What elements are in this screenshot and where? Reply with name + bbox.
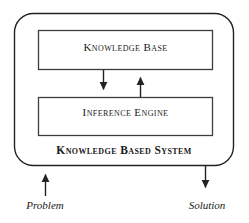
- problem-label: Problem: [8, 199, 82, 211]
- outer-container-shape: [15, 14, 234, 166]
- knowledge-based-system-label: Knowledge Based System: [14, 144, 234, 156]
- inference-engine-label: Inference Engine: [38, 106, 213, 118]
- knowledge-based-system-diagram: Knowledge Base Inference Engine Knowledg…: [0, 0, 249, 223]
- solution-label: Solution: [170, 199, 244, 211]
- knowledge-base-label: Knowledge Base: [38, 41, 213, 53]
